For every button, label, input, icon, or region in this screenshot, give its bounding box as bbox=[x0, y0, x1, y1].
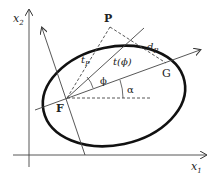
phi-label: ϕ bbox=[100, 75, 107, 86]
tp-label: tP bbox=[81, 54, 90, 68]
point-g-label: G bbox=[162, 67, 171, 80]
ellipse bbox=[33, 33, 194, 159]
phi-arc bbox=[87, 77, 93, 88]
x1-axis-label: x1 bbox=[191, 160, 202, 175]
ellipse-diagram: x2 x1 P F G tP dP t(ϕ) ϕ α bbox=[0, 0, 216, 177]
x2-axis-label: x2 bbox=[13, 12, 24, 27]
alpha-label: α bbox=[127, 84, 134, 95]
dp-label: dP bbox=[147, 41, 158, 55]
t-phi-label: t(ϕ) bbox=[113, 56, 132, 67]
alpha-arc bbox=[120, 80, 123, 98]
point-p-label: P bbox=[104, 12, 112, 25]
diagram-canvas: x2 x1 P F G tP dP t(ϕ) ϕ α bbox=[0, 0, 216, 177]
point-f-label: F bbox=[56, 102, 64, 115]
